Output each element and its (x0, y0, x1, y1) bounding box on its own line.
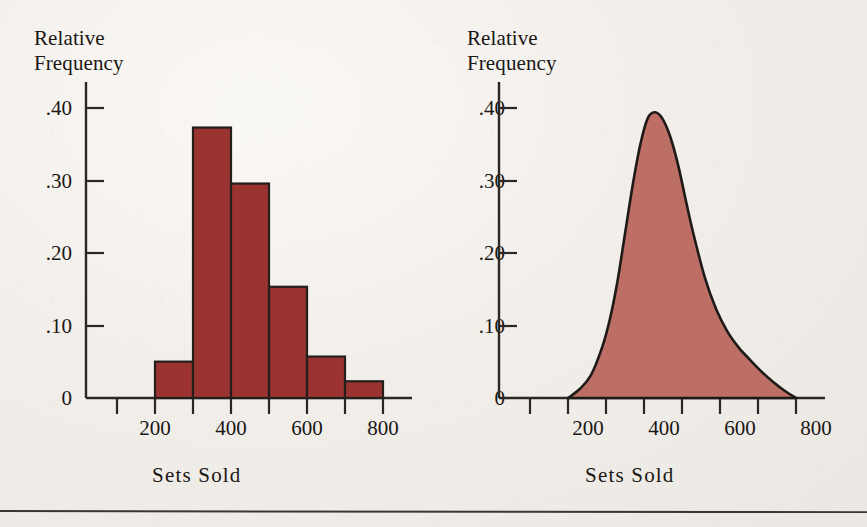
histogram-plot (0, 0, 434, 527)
bar-400-500 (231, 184, 269, 398)
density-curve-area (568, 112, 796, 398)
bar-300-400 (193, 128, 231, 398)
bar-200-300 (155, 362, 193, 398)
bar-500-600 (269, 287, 307, 398)
panel-smooth-curve: Relative Frequency .40 .30 .20 .10 0 200… (433, 0, 867, 527)
y-tick-marks (499, 108, 517, 326)
bar-600-700 (307, 357, 345, 398)
histogram-bars (155, 128, 383, 398)
bar-700-800 (345, 381, 383, 398)
figure-two-panel: Relative Frequency .40 .30 .20 .10 0 200… (0, 0, 867, 527)
y-tick-marks (86, 108, 104, 326)
x-tick-marks (530, 398, 796, 414)
x-tick-marks (117, 398, 383, 414)
smooth-curve-plot (433, 0, 867, 527)
panel-histogram: Relative Frequency .40 .30 .20 .10 0 200… (0, 0, 434, 527)
footer-divider-rule (0, 510, 867, 513)
